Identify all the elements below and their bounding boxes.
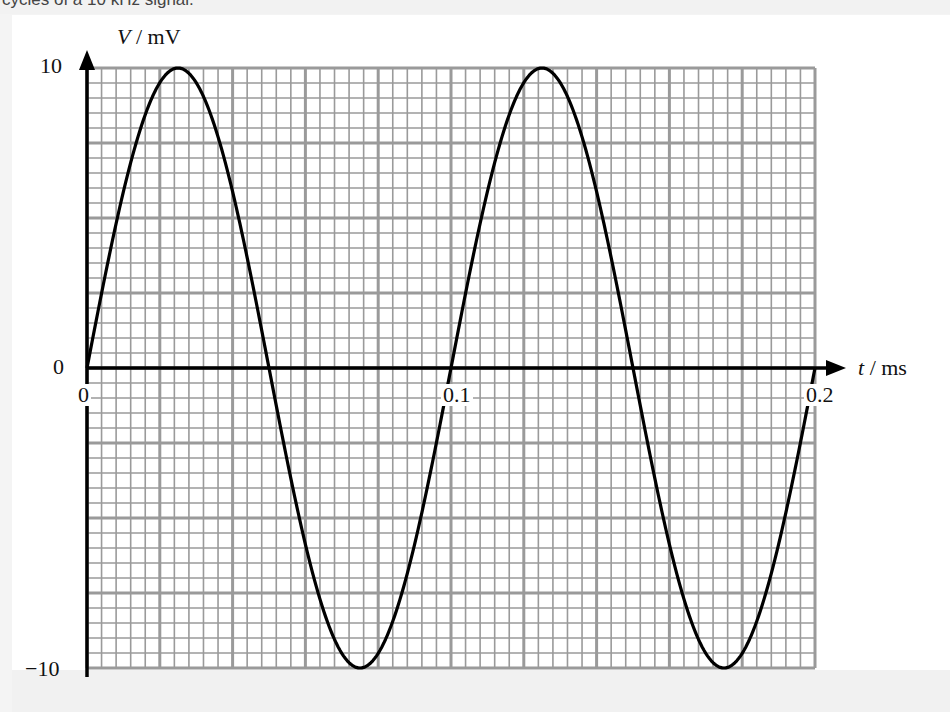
y-axis-arrow-icon (79, 50, 95, 70)
y-tick-10: 10 (40, 55, 62, 77)
x-tick-0-2: 0.2 (804, 384, 836, 406)
x-tick-0: 0 (76, 384, 91, 406)
x-axis-variable: t (858, 355, 864, 380)
x-axis-label: t / ms (858, 357, 907, 379)
y-axis-variable: V (117, 24, 130, 49)
y-axis-unit: / mV (136, 24, 181, 49)
y-tick-minus-10: −10 (25, 658, 59, 680)
x-tick-0-1: 0.1 (441, 384, 473, 406)
y-tick-0: 0 (53, 356, 64, 378)
y-axis-label: V / mV (117, 26, 181, 48)
x-axis-unit: / ms (870, 355, 907, 380)
x-axis-arrow-icon (826, 360, 846, 376)
sine-wave-chart (0, 0, 950, 712)
